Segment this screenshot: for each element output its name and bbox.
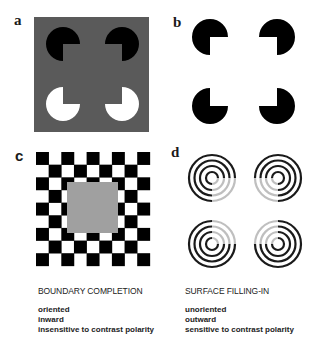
checker-square: [49, 165, 62, 178]
ring-group: [189, 219, 237, 267]
faded-quadrant: [253, 219, 278, 244]
checker-square: [112, 152, 125, 165]
caption-heading: BOUNDARY COMPLETION: [38, 286, 154, 296]
checker-square: [137, 228, 150, 241]
checker-square: [36, 177, 49, 190]
panel-c: [36, 152, 150, 266]
pacman-inducer: [192, 88, 228, 124]
checker-square: [74, 165, 87, 178]
checker-square: [49, 241, 62, 254]
ring-group: [253, 155, 301, 203]
checker-square: [36, 203, 49, 216]
checker-square: [137, 152, 150, 165]
checker-square: [49, 190, 62, 203]
caption-item: unoriented: [185, 305, 294, 315]
checker-square: [125, 215, 138, 228]
ring-group: [189, 155, 237, 203]
caption-heading: SURFACE FILLING-IN: [185, 286, 294, 296]
checker-square: [137, 203, 150, 216]
checker-square: [36, 228, 49, 241]
caption-item: outward: [185, 315, 294, 325]
panel-d-ring-groups: [189, 155, 301, 267]
caption-item: sensitive to contrast polarity: [185, 325, 294, 335]
faded-quadrant: [253, 178, 278, 203]
faded-quadrant: [212, 219, 237, 244]
caption-item: oriented: [38, 305, 154, 315]
checker-square: [99, 241, 112, 254]
faded-quadrant: [212, 178, 237, 203]
checker-square: [36, 253, 49, 266]
pacman-inducer: [259, 88, 295, 124]
checker-square: [87, 253, 100, 266]
pacman-inducer: [259, 19, 295, 55]
caption-item: inward: [38, 315, 154, 325]
gray-square: [67, 182, 118, 233]
checker-square: [61, 152, 74, 165]
checker-square: [87, 152, 100, 165]
checker-square: [125, 241, 138, 254]
ring-group: [253, 219, 301, 267]
caption-surface-filling-in: SURFACE FILLING-IN unoriented outward se…: [185, 286, 294, 335]
checker-square: [137, 177, 150, 190]
checker-square: [61, 253, 74, 266]
pacman-inducer: [192, 19, 228, 55]
panel-b-inducers: [192, 19, 295, 124]
checker-square: [74, 241, 87, 254]
checker-square: [36, 152, 49, 165]
caption-boundary-completion: BOUNDARY COMPLETION oriented inward inse…: [38, 286, 154, 335]
checker-square: [99, 165, 112, 178]
checker-square: [125, 190, 138, 203]
caption-item: insensitive to contrast polarity: [38, 325, 154, 335]
panel-a: [34, 17, 149, 132]
checker-square: [137, 253, 150, 266]
checker-square: [112, 253, 125, 266]
checker-square: [125, 165, 138, 178]
checker-square: [49, 215, 62, 228]
